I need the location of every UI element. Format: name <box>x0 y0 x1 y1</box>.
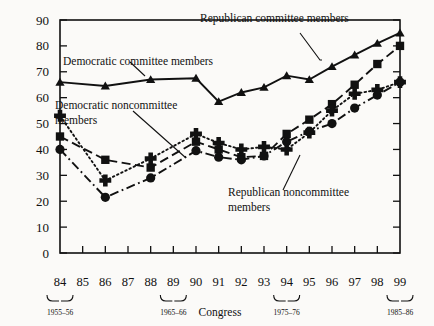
y-axis-label-60: 60 <box>36 90 49 105</box>
congress-bracket-1 <box>47 295 73 301</box>
x-axis-label-88: 88 <box>144 275 157 289</box>
x-axis-title: Congress <box>199 306 242 319</box>
chart-container: 0102030405060708090848586878889909192939… <box>0 0 434 326</box>
leader-rep-committee <box>300 33 322 60</box>
series-line-0 <box>60 33 400 102</box>
republican-committee-label: Republican committee members <box>200 12 349 25</box>
y-axis-label-30: 30 <box>36 168 49 183</box>
series-3-marker-6 <box>259 151 268 160</box>
series-1-marker-2 <box>146 163 154 171</box>
congress-bracket-3 <box>274 295 300 301</box>
democratic-noncommittee-label-2: members <box>55 114 98 126</box>
series-1-marker-12 <box>396 42 404 50</box>
y-axis-label-90: 90 <box>36 13 49 28</box>
series-1-marker-7 <box>282 130 290 138</box>
line-chart: 0102030405060708090848586878889909192939… <box>0 0 434 326</box>
x-axis-label-84: 84 <box>54 275 67 289</box>
x-axis-label-97: 97 <box>348 275 361 289</box>
series-0-marker-6 <box>259 83 268 91</box>
series-3-marker-11 <box>373 90 382 99</box>
series-3-marker-10 <box>350 103 359 112</box>
y-axis-label-10: 10 <box>36 220 49 235</box>
congress-bracket-4 <box>387 295 413 301</box>
republican-noncommittee-label-1: Republican noncommittee <box>228 186 349 199</box>
y-axis-label-0: 0 <box>43 246 50 261</box>
x-axis-label-93: 93 <box>258 275 271 289</box>
congress-bracket-label-4: 1985–86 <box>387 308 414 317</box>
series-3-marker-4 <box>214 153 223 162</box>
leader-dem-noncommittee <box>133 111 186 158</box>
leader-rep-noncommittee <box>283 155 300 190</box>
series-1-marker-11 <box>373 60 381 68</box>
series-3-marker-2 <box>146 173 155 182</box>
x-axis-label-92: 92 <box>235 275 248 289</box>
series-2-marker-10 <box>349 88 361 100</box>
series-1-marker-0 <box>56 132 64 140</box>
series-3-marker-8 <box>305 127 314 136</box>
x-axis-label-86: 86 <box>99 275 112 289</box>
x-axis-label-99: 99 <box>394 275 407 289</box>
series-1-marker-8 <box>305 115 313 123</box>
x-axis-label-95: 95 <box>303 275 316 289</box>
y-axis-label-40: 40 <box>36 142 49 157</box>
congress-bracket-label-1: 1955–56 <box>47 308 74 317</box>
congress-bracket-label-2: 1965–66 <box>160 308 187 317</box>
x-axis-label-96: 96 <box>326 275 339 289</box>
series-2-marker-2 <box>145 153 157 165</box>
y-axis-label-50: 50 <box>36 116 49 131</box>
series-3-marker-3 <box>191 146 200 155</box>
series-3-marker-0 <box>55 145 64 154</box>
x-axis-label-91: 91 <box>212 275 225 289</box>
x-axis-label-98: 98 <box>371 275 384 289</box>
series-0-marker-10 <box>350 51 359 59</box>
series-0-marker-12 <box>395 29 404 37</box>
series-0-marker-7 <box>282 71 291 79</box>
series-0-marker-9 <box>327 62 336 70</box>
x-axis-label-87: 87 <box>122 275 135 289</box>
series-3-marker-1 <box>101 193 110 202</box>
series-3-marker-5 <box>237 155 246 164</box>
series-3-marker-12 <box>395 78 404 87</box>
series-2-marker-1 <box>99 175 111 187</box>
congress-bracket-label-3: 1975–76 <box>274 308 301 317</box>
series-1-marker-1 <box>101 156 109 164</box>
y-axis-label-20: 20 <box>36 194 49 209</box>
y-axis-label-70: 70 <box>36 64 49 79</box>
series-3-marker-7 <box>282 137 291 146</box>
x-axis-label-94: 94 <box>280 275 293 289</box>
congress-bracket-2 <box>160 295 186 301</box>
series-1-marker-10 <box>350 81 358 89</box>
series-2-marker-6 <box>258 141 270 153</box>
democratic-noncommittee-label-1: Democratic noncommittee <box>55 99 177 111</box>
x-axis-label-89: 89 <box>167 275 180 289</box>
y-axis-label-80: 80 <box>36 38 49 53</box>
x-axis-label-85: 85 <box>76 275 89 289</box>
republican-noncommittee-label-2: members <box>228 201 271 213</box>
series-3-marker-9 <box>327 119 336 128</box>
democratic-committee-label: Democratic committee members <box>63 55 214 67</box>
x-axis-label-90: 90 <box>190 275 203 289</box>
